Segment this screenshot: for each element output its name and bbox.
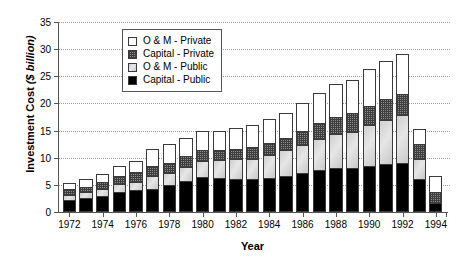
bar-segment-om-private — [379, 61, 392, 99]
bar-1974 — [96, 174, 109, 212]
legend-item-om-public: O & M - Public — [128, 61, 214, 73]
bar-segment-om-private — [313, 93, 326, 123]
bar-segment-capital-private — [263, 143, 276, 155]
bar-segment-om-public — [229, 159, 242, 179]
bar-segment-capital-private — [363, 106, 376, 126]
bar-segment-capital-private — [146, 166, 159, 176]
x-axis-tick — [336, 212, 337, 217]
chart-legend: O & M - PrivateCapital - PrivateO & M - … — [122, 29, 222, 92]
bar-segment-capital-private — [196, 150, 209, 161]
y-axis-tick — [54, 212, 59, 213]
bar-segment-capital-public — [296, 173, 309, 212]
y-axis-title-units: ($ billion) — [24, 35, 36, 84]
bar-segment-capital-public — [346, 168, 359, 213]
legend-label: O & M - Private — [143, 36, 211, 46]
legend-swatch-om-public — [128, 63, 137, 72]
bar-segment-om-private — [429, 176, 442, 192]
bar-segment-om-public — [346, 132, 359, 168]
bar-segment-capital-private — [346, 113, 359, 132]
bar-1991 — [379, 61, 392, 212]
bar-segment-om-private — [263, 119, 276, 143]
bar-segment-capital-public — [179, 181, 192, 212]
x-axis-tick — [236, 212, 237, 217]
bar-segment-capital-private — [379, 99, 392, 120]
bar-segment-capital-private — [396, 94, 409, 116]
bar-segment-capital-public — [79, 198, 92, 212]
y-axis-tick-label: 0 — [45, 207, 51, 218]
bar-segment-om-private — [163, 144, 176, 162]
x-axis-tick-label: 1988 — [325, 219, 347, 230]
bar-1986 — [296, 103, 309, 212]
y-axis-tick-label: 20 — [40, 98, 51, 109]
legend-item-om-private: O & M - Private — [128, 35, 214, 47]
bar-segment-capital-public — [63, 200, 76, 212]
bar-1973 — [79, 179, 92, 212]
bar-segment-capital-public — [229, 179, 242, 212]
bar-segment-capital-private — [213, 150, 226, 160]
bar-segment-om-private — [346, 80, 359, 113]
bar-segment-om-public — [396, 115, 409, 162]
bar-1994 — [429, 176, 442, 212]
bar-segment-capital-public — [396, 163, 409, 212]
bar-segment-capital-private — [246, 147, 259, 159]
bar-segment-om-public — [379, 120, 392, 164]
plot-area: 05101520253035 1972197419761978198019821… — [58, 22, 448, 213]
bar-segment-om-private — [213, 131, 226, 151]
bar-segment-om-private — [329, 84, 342, 117]
x-axis-tick-label: 1980 — [191, 219, 213, 230]
bar-segment-om-private — [179, 138, 192, 156]
x-axis-tick-label: 1992 — [391, 219, 413, 230]
bar-segment-om-private — [229, 128, 242, 149]
y-axis-tick-label: 5 — [45, 179, 51, 190]
bar-segment-om-private — [246, 125, 259, 147]
legend-swatch-capital-public — [128, 76, 137, 85]
bar-segment-om-public — [113, 184, 126, 192]
bar-1978 — [163, 144, 176, 212]
bar-segment-capital-private — [96, 182, 109, 189]
bar-segment-capital-public — [113, 192, 126, 212]
bar-segment-om-private — [413, 129, 426, 144]
bar-segment-om-public — [179, 167, 192, 181]
y-axis-title: Investment Cost ($ billion) — [24, 19, 36, 189]
x-axis-tick — [369, 212, 370, 217]
bar-segment-capital-public — [129, 190, 142, 212]
bar-segment-om-public — [129, 182, 142, 191]
x-axis-tick-label: 1990 — [358, 219, 380, 230]
legend-item-capital-private: Capital - Private — [128, 48, 214, 60]
x-axis-tick — [269, 212, 270, 217]
bar-segment-om-public — [413, 159, 426, 180]
bar-segment-om-private — [279, 113, 292, 138]
x-axis-tick — [136, 212, 137, 217]
bar-segment-capital-private — [429, 192, 442, 203]
y-axis-tick-label: 10 — [40, 152, 51, 163]
x-axis-title: Year — [58, 240, 447, 252]
bar-segment-om-public — [363, 125, 376, 166]
bar-segment-capital-public — [96, 196, 109, 212]
bar-segment-capital-public — [246, 179, 259, 212]
bar-segment-capital-public — [329, 168, 342, 213]
bar-segment-capital-public — [363, 166, 376, 212]
bar-segment-om-private — [296, 103, 309, 130]
bar-1988 — [329, 84, 342, 212]
bar-segment-om-private — [363, 69, 376, 106]
bar-1992 — [396, 54, 409, 212]
bar-1979 — [179, 138, 192, 212]
bar-segment-capital-private — [113, 176, 126, 185]
bar-segment-om-private — [196, 131, 209, 150]
bar-segment-om-private — [96, 174, 109, 182]
y-axis-tick-label: 25 — [40, 71, 51, 82]
bar-1989 — [346, 80, 359, 212]
x-axis-tick — [103, 212, 104, 217]
bar-segment-capital-public — [146, 189, 159, 212]
bar-segment-om-public — [329, 134, 342, 167]
bar-segment-capital-public — [163, 185, 176, 212]
bar-segment-capital-public — [413, 179, 426, 212]
bar-segment-capital-private — [229, 149, 242, 159]
bar-segment-capital-public — [213, 178, 226, 212]
legend-label: Capital - Public — [143, 75, 210, 85]
bar-segment-capital-private — [129, 172, 142, 182]
bar-segment-capital-private — [279, 138, 292, 150]
bar-segment-capital-public — [196, 177, 209, 212]
x-axis-tick-label: 1974 — [92, 219, 114, 230]
bar-segment-capital-private — [329, 117, 342, 134]
